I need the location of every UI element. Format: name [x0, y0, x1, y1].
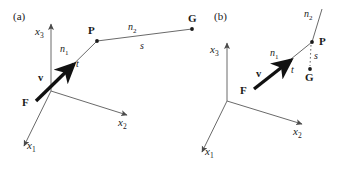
panel-a-axis-label-x1: x1 — [27, 140, 36, 151]
panel-b-point-label-P: P — [319, 36, 326, 47]
panel-a-axis-label-x3: x3 — [35, 26, 44, 37]
panel-a-point-label-F: F — [22, 97, 29, 108]
panel-a-point-P-marker — [95, 39, 99, 43]
diagram-vector-graphics — [0, 0, 348, 170]
panel-b-axis-label-x3-sub: 3 — [215, 49, 219, 58]
panel-a-axis-label-x2-sub: 2 — [123, 122, 127, 131]
panel-b-medium-label-n1-sub: 1 — [275, 53, 279, 61]
panel-b-segment-label-t: t — [291, 65, 294, 75]
panel-b-segment-s-dashed — [310, 45, 311, 66]
panel-a-vector-label-v: v — [38, 73, 43, 84]
panel-b-axis-x2 — [227, 101, 302, 124]
panel-b-vector-label-v: v — [256, 69, 261, 80]
panel-b-axis-label-x2: x2 — [293, 126, 302, 137]
panel-a-axis-label-x1-sub: 1 — [32, 145, 36, 154]
panel-b-medium-label-n1: n1 — [270, 48, 279, 58]
panel-b-axis-label-x1-sub: 1 — [210, 151, 214, 160]
panel-a-segment-label-t: t — [76, 59, 79, 69]
panel-b-point-label-G: G — [305, 72, 314, 83]
panel-a-axis-label-x3-sub: 3 — [40, 31, 44, 40]
panel-b-axis-label-x1: x1 — [205, 146, 214, 157]
panel-a-point-label-P: P — [88, 25, 95, 36]
panel-b-segment-label-s: s — [314, 51, 318, 61]
panel-a-point-G-marker — [190, 27, 194, 31]
panel-a-segment-label-s: s — [140, 41, 144, 51]
panel-b-medium-label-n2-sub: 2 — [309, 14, 313, 22]
figure-two-panel-refraction-diagram: (a) x3 x2 x1 n1 n2 t s P G F v (b) x3 x2… — [0, 0, 348, 170]
panel-a-medium-label-n1: n1 — [60, 44, 69, 54]
panel-b-point-P-marker — [310, 40, 314, 44]
panel-b-axis-label-x3: x3 — [210, 44, 219, 55]
panel-b-medium-label-n2: n2 — [304, 9, 313, 19]
panel-a-axis-x2 — [51, 91, 127, 115]
panel-a-ray-segment-s — [97, 29, 192, 41]
panel-b-point-label-F: F — [240, 85, 247, 96]
panel-b-axis-label-x2-sub: 2 — [298, 131, 302, 140]
panel-a-medium-label-n2-sub: 2 — [133, 27, 137, 35]
panel-a-graphics — [24, 24, 194, 146]
panel-a-point-label-G: G — [188, 13, 197, 24]
panel-a-medium-label-n2: n2 — [128, 22, 137, 32]
panel-a-tag: (a) — [13, 11, 25, 22]
panel-a-axis-label-x2: x2 — [118, 117, 127, 128]
panel-b-tag: (b) — [214, 11, 227, 22]
panel-a-medium-label-n1-sub: 1 — [65, 49, 69, 57]
panel-b-graphics — [202, 9, 322, 152]
